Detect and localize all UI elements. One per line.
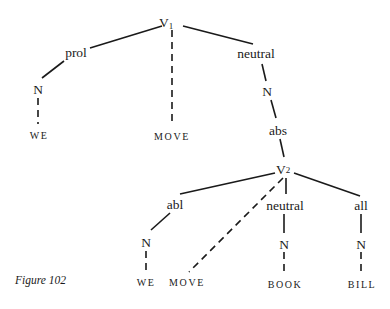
- edge-v1-neutral: [183, 26, 253, 44]
- edge-v2-move: [189, 178, 283, 272]
- node-prol: prol: [65, 45, 87, 60]
- edge-n-abs: [271, 100, 276, 118]
- edge-neutral-n: [262, 64, 266, 81]
- edge-v1-prol: [90, 26, 162, 48]
- node-v2: V2: [276, 162, 290, 177]
- node-all: all: [354, 198, 368, 213]
- node-we: WE: [30, 130, 49, 141]
- node-move2: MOVE: [169, 277, 205, 288]
- node-n-bill: N: [356, 237, 366, 252]
- node-book: BOOK: [268, 279, 303, 290]
- edge-v2-abl: [180, 173, 275, 194]
- node-abs: abs: [269, 123, 287, 138]
- edge-abs-v2: [280, 139, 284, 157]
- tree-diagram: V1 prol N WE MOVE neutral N abs V2 abl N…: [0, 0, 390, 309]
- node-move: MOVE: [154, 131, 190, 142]
- node-neutral2: neutral: [266, 198, 304, 213]
- node-abl: abl: [167, 197, 184, 212]
- node-n-abs: N: [262, 84, 272, 99]
- node-v1: V1: [159, 15, 173, 31]
- node-n-we2: N: [141, 235, 151, 250]
- edge-prol-n: [42, 61, 64, 78]
- edges: [38, 26, 361, 275]
- edge-abl-n: [151, 213, 170, 230]
- node-neutral: neutral: [237, 46, 275, 61]
- figure-caption: Figure 102: [14, 274, 66, 287]
- node-labels: V1 prol N WE MOVE neutral N abs V2 abl N…: [30, 15, 377, 290]
- node-n-book: N: [279, 237, 289, 252]
- node-n-we: N: [33, 82, 43, 97]
- node-we2: WE: [137, 277, 156, 288]
- node-bill: BILL: [348, 279, 377, 290]
- edge-v2-all: [294, 173, 360, 196]
